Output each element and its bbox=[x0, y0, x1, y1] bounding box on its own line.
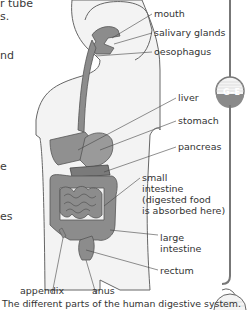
label-anus: anus bbox=[92, 285, 115, 296]
label-liver: liver bbox=[178, 92, 199, 103]
figure-caption: The different parts of the human digesti… bbox=[2, 298, 241, 309]
body-text-fragment: r tube bbox=[0, 0, 33, 10]
label-small-intestine-line4: is absorbed here) bbox=[142, 205, 225, 216]
label-pancreas: pancreas bbox=[178, 141, 221, 152]
digestive-diagram bbox=[0, 0, 249, 310]
body-text-fragment: s. bbox=[0, 10, 9, 23]
body-text-fragment: es bbox=[0, 210, 13, 223]
body-text-fragment: e bbox=[0, 160, 7, 173]
body-text-fragment: nd bbox=[0, 49, 14, 62]
label-rectum: rectum bbox=[160, 265, 194, 276]
label-stomach: stomach bbox=[178, 115, 219, 126]
grade-badge: G–E bbox=[223, 88, 241, 97]
label-small-intestine-line1: small bbox=[142, 172, 167, 183]
rectum-shape bbox=[79, 236, 94, 260]
label-mouth: mouth bbox=[154, 8, 185, 19]
label-salivary-glands: salivary glands bbox=[154, 27, 226, 38]
label-oesophagus: oesophagus bbox=[154, 46, 211, 57]
label-small-intestine-line2: intestine bbox=[142, 183, 183, 194]
grade-track bbox=[214, 0, 246, 310]
digestive-system-figure: r tube s. nd e es mouth salivary glands … bbox=[0, 0, 249, 310]
label-large-intestine-line1: large bbox=[160, 232, 184, 243]
label-appendix: appendix bbox=[20, 285, 64, 296]
label-small-intestine-line3: (digested food bbox=[142, 194, 211, 205]
label-large-intestine-line2: intestine bbox=[160, 243, 201, 254]
